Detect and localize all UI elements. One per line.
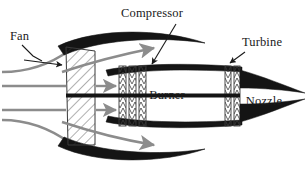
label-turbine: Turbine: [242, 35, 282, 49]
streamline-outer-bottom: [2, 120, 70, 143]
core-inlet-arrows: [2, 86, 66, 110]
core-flow-arrows: [96, 86, 116, 110]
inlet-streamlines: [2, 50, 70, 143]
label-burner: Burner: [149, 88, 185, 102]
label-nozzle: Nozzle: [246, 94, 283, 108]
turbofan-diagram: Fan Compressor Turbine Burner Nozzle: [0, 0, 308, 170]
leader-compressor: [152, 24, 176, 64]
label-fan: Fan: [10, 29, 30, 43]
nozzle-cone-top: [240, 70, 305, 93]
label-compressor: Compressor: [121, 6, 184, 20]
streamline-outer-top: [2, 50, 70, 72]
leader-turbine: [230, 52, 245, 63]
engine-schematic: Fan Compressor Turbine Burner Nozzle: [0, 0, 308, 170]
leader-fan: [22, 45, 42, 61]
